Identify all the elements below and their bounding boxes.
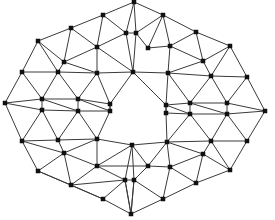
graph-canvas: [0, 0, 275, 220]
graph-node[interactable]: [161, 197, 165, 201]
graph-node[interactable]: [209, 139, 213, 143]
graph-node[interactable]: [40, 108, 44, 112]
graph-node[interactable]: [132, 0, 136, 4]
graph-node[interactable]: [131, 70, 135, 74]
graph-node[interactable]: [101, 197, 105, 201]
graph-node[interactable]: [3, 101, 7, 105]
graph-node[interactable]: [245, 75, 249, 79]
graph-node[interactable]: [62, 60, 66, 64]
graph-node[interactable]: [130, 143, 134, 147]
graph-node[interactable]: [56, 70, 60, 74]
graph-node[interactable]: [124, 31, 128, 35]
graph-node[interactable]: [168, 44, 172, 48]
graph-node[interactable]: [101, 13, 105, 17]
graph-node[interactable]: [194, 30, 198, 34]
graph-node[interactable]: [95, 164, 99, 168]
graph-node[interactable]: [108, 109, 112, 113]
graph-node[interactable]: [36, 39, 40, 43]
graph-node[interactable]: [146, 164, 150, 168]
graph-node[interactable]: [209, 74, 213, 78]
graph-node[interactable]: [129, 212, 133, 216]
graph-node[interactable]: [225, 112, 229, 116]
graph-node[interactable]: [164, 111, 168, 115]
graph-node[interactable]: [166, 71, 170, 75]
graph-node[interactable]: [108, 102, 112, 106]
graph-node[interactable]: [76, 109, 80, 113]
graph-node[interactable]: [165, 140, 169, 144]
graph-node[interactable]: [263, 109, 267, 113]
graph-node[interactable]: [56, 138, 60, 142]
graph-node[interactable]: [95, 137, 99, 141]
graph-node[interactable]: [201, 59, 205, 63]
graph-node[interactable]: [201, 152, 205, 156]
graph-node[interactable]: [188, 112, 192, 116]
graph-node[interactable]: [95, 45, 99, 49]
graph-node[interactable]: [146, 46, 150, 50]
graph-node[interactable]: [76, 97, 80, 101]
graph-node[interactable]: [123, 178, 127, 182]
graph-node[interactable]: [69, 183, 73, 187]
graph-node[interactable]: [36, 169, 40, 173]
graph-node[interactable]: [168, 165, 172, 169]
graph-node[interactable]: [62, 151, 66, 155]
graph-node[interactable]: [134, 31, 138, 35]
graph-node[interactable]: [228, 44, 232, 48]
graph-node[interactable]: [225, 101, 229, 105]
graph-node[interactable]: [194, 181, 198, 185]
graph-node[interactable]: [188, 101, 192, 105]
graph-node[interactable]: [69, 26, 73, 30]
graph-node[interactable]: [40, 97, 44, 101]
graph-figure: [0, 0, 275, 220]
graph-node[interactable]: [20, 70, 24, 74]
graph-node[interactable]: [95, 71, 99, 75]
graph-node[interactable]: [161, 13, 165, 17]
graph-node[interactable]: [132, 178, 136, 182]
graph-node[interactable]: [228, 168, 232, 172]
graph-node[interactable]: [20, 139, 24, 143]
graph-node[interactable]: [164, 103, 168, 107]
graph-node[interactable]: [245, 139, 249, 143]
